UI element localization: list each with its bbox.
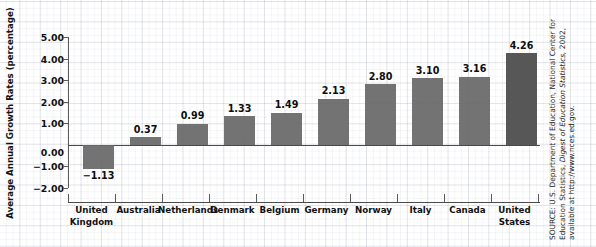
x-category-line: Australia [113,205,164,217]
x-category-label-italy: Italy [397,205,444,217]
bar-denmark [224,116,255,145]
y-tick-label: 0.00 [18,147,64,158]
x-axis-separator [162,194,163,202]
bar-value-label: 0.99 [171,110,214,121]
bar-value-label: 2.13 [312,85,355,96]
x-axis-separator [256,194,257,202]
x-axis-separator [209,194,210,202]
bar-norway [365,84,396,144]
y-tick-label: −1.00 [18,161,64,172]
y-tick-label: −2.00 [18,183,64,194]
x-category-line: Kingdom [68,217,115,229]
x-axis-separator [397,194,398,202]
bar-value-label: 1.33 [218,103,261,114]
y-tick-mark [63,102,68,103]
bar-value-label: 3.16 [453,63,496,74]
x-category-label-belgium: Belgium [256,205,303,217]
source-italic-title: Digest of Education Statistics, [558,52,567,163]
bar-italy [412,78,443,145]
y-tick-mark [63,59,68,60]
y-tick-label: 4.00 [18,54,64,65]
bar-value-label: 2.80 [359,71,402,82]
y-tick-mark [63,188,68,189]
bar-value-label: 4.26 [500,40,543,51]
x-category-line: Norway [350,205,397,217]
x-category-label-netherlands: Netherlands [158,205,213,217]
y-axis-line [68,37,69,188]
x-axis-separator [350,194,351,202]
y-axis-title: Average Annual Growth Rates (percentage) [2,18,18,208]
x-category-line: States [491,217,538,229]
x-axis-line [68,202,540,203]
x-axis-separator [538,194,539,202]
x-axis-separator [115,194,116,202]
x-category-line: United [491,205,538,217]
bar-value-label: 1.49 [265,99,308,110]
bar-value-label: 3.10 [406,65,449,76]
x-axis-separator [303,194,304,202]
x-axis-separator [491,194,492,202]
x-category-line: Germany [303,205,350,217]
bar-australia [130,137,161,145]
y-tick-label: 2.00 [18,97,64,108]
y-tick-mark [63,123,68,124]
bar-chart-figure: Average Annual Growth Rates (percentage)… [0,0,596,247]
zero-baseline [68,145,540,146]
x-category-line: Denmark [209,205,256,217]
y-tick-mark [63,166,68,167]
bar-canada [459,77,490,145]
bar-united-kingdom [83,145,114,169]
bar-netherlands [177,124,208,145]
x-axis-separator [68,194,69,202]
y-tick-label: 5.00 [18,32,64,43]
y-tick-mark [63,37,68,38]
bar-belgium [271,113,302,145]
y-tick-label: 3.00 [18,75,64,86]
x-category-label-united-kingdom: United Kingdom [68,205,115,228]
x-category-label-united-states: United States [491,205,538,228]
x-category-line: Italy [397,205,444,217]
x-category-label-norway: Norway [350,205,397,217]
x-category-line: Netherlands [158,205,213,217]
plot-area: −1.13 0.37 0.99 1.33 1.49 2.13 2.80 3.10… [68,37,540,188]
bar-value-label: −1.13 [77,170,120,181]
y-tick-mark [63,80,68,81]
y-tick-label: 1.00 [18,118,64,129]
x-axis-separator [444,194,445,202]
y-axis-title-text: Average Annual Growth Rates (percentage) [2,18,18,208]
x-category-line: United [68,205,115,217]
x-category-label-germany: Germany [303,205,350,217]
x-category-label-australia: Australia [113,205,164,217]
bar-value-label: 0.37 [124,124,167,135]
bar-germany [318,99,349,145]
source-note: SOURCE: U.S. Department of Education, Na… [548,8,588,240]
x-category-line: Canada [444,205,491,217]
x-category-label-canada: Canada [444,205,491,217]
x-category-label-denmark: Denmark [209,205,256,217]
x-category-line: Belgium [256,205,303,217]
y-axis-tick-labels: 5.00 4.00 3.00 2.00 1.00 0.00 −1.00 −2.0… [18,0,64,247]
bar-united-states [506,53,537,145]
